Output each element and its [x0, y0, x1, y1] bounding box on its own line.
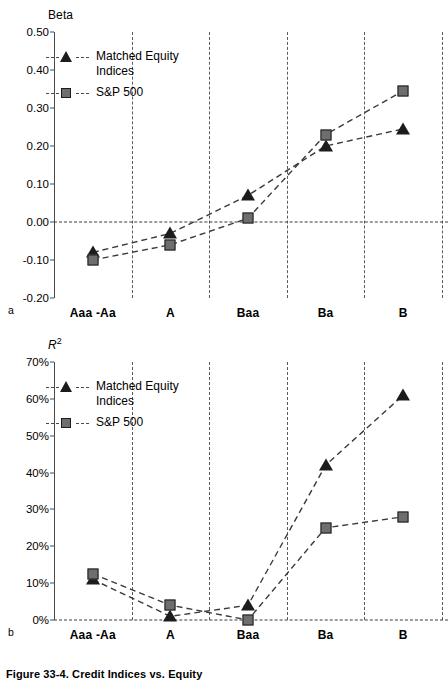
- data-point-square: [398, 85, 409, 96]
- y-axis-tick-label: 0.40: [3, 64, 49, 76]
- legend-dash-right-icon: [76, 57, 89, 58]
- data-point-square: [320, 522, 331, 533]
- panel-a-beta-chart: Beta 0.500.400.300.200.100.00-0.10-0.20 …: [0, 6, 448, 336]
- data-point-triangle: [319, 139, 333, 151]
- x-axis-category-label: Baa: [237, 306, 260, 320]
- panel-b-axis-title-superscript: 2: [57, 336, 62, 346]
- legend-dash-right-icon: [76, 387, 89, 388]
- square-marker-icon: [61, 88, 71, 98]
- y-axis-tick-label: 70%: [3, 356, 49, 368]
- y-axis-tick-label: -0.10: [3, 254, 49, 266]
- x-axis-category-label: A: [166, 628, 175, 642]
- y-axis-tick-label: 50%: [3, 430, 49, 442]
- data-point-triangle: [241, 599, 255, 611]
- data-point-triangle: [319, 459, 333, 471]
- legend-label-line2: Indices: [96, 64, 134, 79]
- data-point-triangle: [241, 189, 255, 201]
- series-line-square: [93, 91, 403, 260]
- legend-label-line1: Matched Equity: [96, 49, 179, 64]
- legend-label-line1: S&P 500: [96, 85, 143, 100]
- data-point-square: [87, 568, 98, 579]
- legend-label-line1: Matched Equity: [96, 379, 179, 394]
- panel-b-axis-title: R2: [48, 336, 62, 352]
- vertical-gridline: [442, 32, 443, 298]
- triangle-marker-icon: [60, 51, 72, 62]
- y-axis-tick-label: 40%: [3, 467, 49, 479]
- x-axis-category-label: A: [166, 306, 175, 320]
- x-axis-category-label: Ba: [318, 306, 334, 320]
- x-axis-category-label: Aaa -Aa: [70, 628, 116, 642]
- panel-a-axis-title: Beta: [48, 8, 73, 22]
- data-point-triangle: [163, 227, 177, 239]
- y-axis-tick-label: 20%: [3, 540, 49, 552]
- triangle-marker-icon: [60, 381, 72, 392]
- data-point-square: [243, 213, 254, 224]
- legend-dash-left-icon: [46, 423, 59, 424]
- figure-caption: Figure 33-4. Credit Indices vs. Equity: [6, 668, 202, 680]
- panel-b-axis-title-text: R: [48, 338, 57, 352]
- x-axis-category-label: Ba: [318, 628, 334, 642]
- x-axis-category-label: B: [399, 628, 408, 642]
- panel-b-r2-chart: R2 70%60%50%40%30%20%10%0% Aaa -AaABaaBa…: [0, 336, 448, 656]
- x-axis-category-label: B: [399, 306, 408, 320]
- y-axis-tick-label: 10%: [3, 577, 49, 589]
- data-point-square: [165, 600, 176, 611]
- panel-b-letter: b: [8, 626, 14, 638]
- y-axis-tick-label: 30%: [3, 503, 49, 515]
- data-point-square: [243, 615, 254, 626]
- legend-dash-left-icon: [46, 387, 59, 388]
- legend-label-line2: Indices: [96, 394, 134, 409]
- data-point-square: [87, 255, 98, 266]
- y-axis-tick-label: 0.00: [3, 216, 49, 228]
- legend-dash-right-icon: [76, 423, 89, 424]
- y-axis-tick-label: 0.10: [3, 178, 49, 190]
- figure-33-4: Beta 0.500.400.300.200.100.00-0.10-0.20 …: [0, 0, 448, 689]
- square-marker-icon: [61, 418, 71, 428]
- y-axis-tick-label: 0%: [3, 614, 49, 626]
- data-point-square: [398, 511, 409, 522]
- data-point-triangle: [396, 122, 410, 134]
- legend-label-line1: S&P 500: [96, 415, 143, 430]
- y-axis-tick-label: 60%: [3, 393, 49, 405]
- vertical-gridline: [442, 362, 443, 620]
- y-axis-tick-label: 0.20: [3, 140, 49, 152]
- x-axis-category-label: Baa: [237, 628, 260, 642]
- legend-dash-right-icon: [76, 93, 89, 94]
- y-axis-tick-label: 0.30: [3, 102, 49, 114]
- data-point-square: [320, 129, 331, 140]
- data-point-triangle: [396, 389, 410, 401]
- legend-dash-left-icon: [46, 93, 59, 94]
- panel-a-letter: a: [8, 304, 14, 316]
- x-axis-category-label: Aaa -Aa: [70, 306, 116, 320]
- y-axis-tick-label: 0.50: [3, 26, 49, 38]
- y-axis-tick-label: -0.20: [3, 292, 49, 304]
- data-point-square: [165, 239, 176, 250]
- data-point-triangle: [163, 610, 177, 622]
- legend-dash-left-icon: [46, 57, 59, 58]
